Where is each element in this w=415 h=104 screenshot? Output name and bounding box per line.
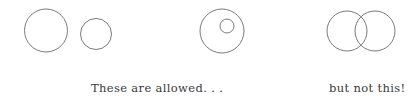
- caption-allowed: These are allowed. . .: [91, 83, 223, 95]
- small-circle: [81, 19, 112, 50]
- group-overlapping-circles: [327, 11, 395, 51]
- circle-configuration-figure: These are allowed. . . but not this!: [0, 0, 415, 104]
- caption-not-allowed: but not this!: [329, 83, 405, 95]
- right-circle: [355, 11, 395, 51]
- group-two-disjoint-circles: [25, 9, 112, 52]
- group-nested-circles: [200, 9, 244, 53]
- inner-circle: [220, 19, 234, 33]
- large-circle: [25, 9, 68, 52]
